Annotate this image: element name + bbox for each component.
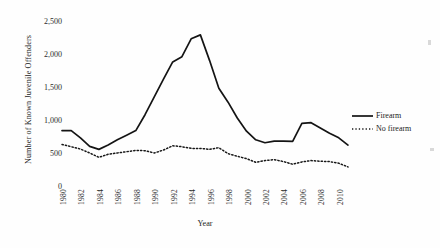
x-axis-title: Year: [62, 219, 348, 228]
legend-item-no-firearm: No firearm: [352, 122, 438, 135]
scan-speckle: [428, 40, 431, 45]
legend-solid-line-icon: [352, 112, 373, 120]
legend-dotted-line-icon: [352, 125, 373, 133]
legend-label-firearm: Firearm: [376, 111, 401, 120]
chart-figure: Number of Known Juvenile Offenders 2,500…: [0, 0, 440, 248]
chart-legend: Firearm No firearm: [352, 109, 438, 135]
scan-speckle: [430, 148, 434, 151]
legend-item-firearm: Firearm: [352, 109, 438, 122]
legend-label-no-firearm: No firearm: [376, 124, 411, 133]
series-line-no-firearm: [62, 144, 348, 166]
series-line-firearm: [62, 35, 348, 150]
